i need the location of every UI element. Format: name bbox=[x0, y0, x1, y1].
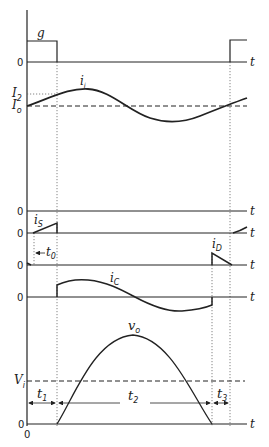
svg-text:0: 0 bbox=[17, 292, 23, 303]
time-axis-label: t bbox=[250, 55, 255, 69]
switch-current-label: iS bbox=[34, 213, 43, 229]
svg-text:t: t bbox=[250, 258, 255, 272]
svg-text:t: t bbox=[250, 290, 255, 304]
output-voltage-waveform: vo Vi 0 0 t t1 t2 t3 bbox=[14, 318, 255, 440]
waveform-diagram: g 0 t ii I2 Io 0 t iS 0 t t0 iD 0 t bbox=[0, 0, 269, 447]
t0-label: t0 bbox=[46, 245, 56, 261]
input-current-waveform: ii I2 Io bbox=[11, 74, 247, 122]
zero-label: 0 bbox=[17, 57, 23, 68]
output-voltage-label: vo bbox=[128, 318, 140, 335]
svg-text:t: t bbox=[250, 226, 255, 240]
svg-text:0: 0 bbox=[17, 228, 23, 239]
t2-label: t2 bbox=[128, 388, 138, 405]
t3-label: t3 bbox=[217, 386, 227, 403]
gate-waveform: g 0 t bbox=[17, 26, 255, 69]
input-current-label: ii bbox=[80, 74, 86, 90]
blank-axis: 0 t bbox=[17, 204, 255, 218]
svg-text:t: t bbox=[250, 204, 255, 218]
svg-text:0: 0 bbox=[17, 206, 23, 217]
capacitor-current-label: iC bbox=[110, 271, 120, 287]
vi-level-label: Vi bbox=[14, 373, 26, 390]
origin-label: 0 bbox=[24, 429, 30, 440]
t1-label: t1 bbox=[37, 386, 47, 403]
capacitor-current-waveform: iC 0 t bbox=[17, 271, 255, 311]
switch-current-waveform: iS 0 t t0 bbox=[17, 213, 255, 261]
svg-text:0: 0 bbox=[17, 260, 23, 271]
svg-text:t: t bbox=[250, 417, 255, 431]
gate-label: g bbox=[37, 26, 45, 40]
diode-current-label: iD bbox=[212, 237, 222, 253]
